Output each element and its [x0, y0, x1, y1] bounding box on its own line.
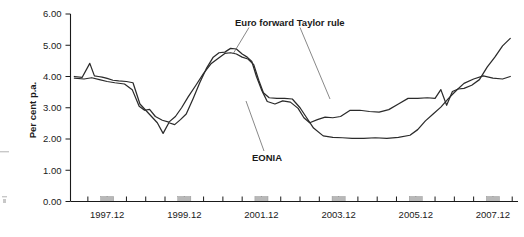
edge-scan-artifacts: [0, 151, 9, 203]
chart-container: 0.001.002.003.004.005.006.00 1997.121999…: [0, 0, 524, 237]
x-tick-label: 1999.12: [167, 209, 201, 220]
x-tick-label: 2007.12: [476, 209, 510, 220]
x-axis-shaded-band: [255, 197, 268, 202]
y-tick-label: 6.00: [43, 8, 62, 19]
y-tick-label: 4.00: [43, 71, 62, 82]
line-chart: 0.001.002.003.004.005.006.00 1997.121999…: [0, 0, 524, 237]
x-axis-shaded-band: [409, 197, 422, 202]
x-axis-ticks: 1997.121999.122001.122003.122005.122007.…: [88, 197, 512, 220]
x-axis-shaded-band: [178, 197, 191, 202]
taylor-rule-leader-line-right: [300, 28, 330, 100]
taylor-rule-leader-line-left: [233, 28, 249, 55]
series-line: [74, 53, 510, 139]
y-tick-label: 0.00: [43, 196, 62, 207]
x-tick-label: 1997.12: [90, 209, 124, 220]
x-tick-label: 2001.12: [244, 209, 278, 220]
data-series-group: [74, 38, 510, 138]
x-tick-label: 2003.12: [321, 209, 355, 220]
eonia-label: EONIA: [252, 152, 282, 163]
y-tick-label: 2.00: [43, 133, 62, 144]
series-line: [74, 38, 510, 133]
x-axis-shaded-band: [486, 197, 499, 202]
y-axis-title: Per cent p.a.: [27, 82, 38, 139]
y-tick-label: 3.00: [43, 102, 62, 113]
y-axis-ticks: 0.001.002.003.004.005.006.00: [43, 8, 71, 207]
x-axis-shaded-band: [101, 197, 114, 202]
eonia-leader-line: [246, 101, 264, 151]
x-tick-label: 2005.12: [399, 209, 433, 220]
euro-forward-taylor-rule-label: Euro forward Taylor rule: [235, 17, 345, 28]
y-tick-label: 1.00: [43, 165, 62, 176]
x-axis-shaded-band: [332, 197, 345, 202]
y-tick-label: 5.00: [43, 40, 62, 51]
